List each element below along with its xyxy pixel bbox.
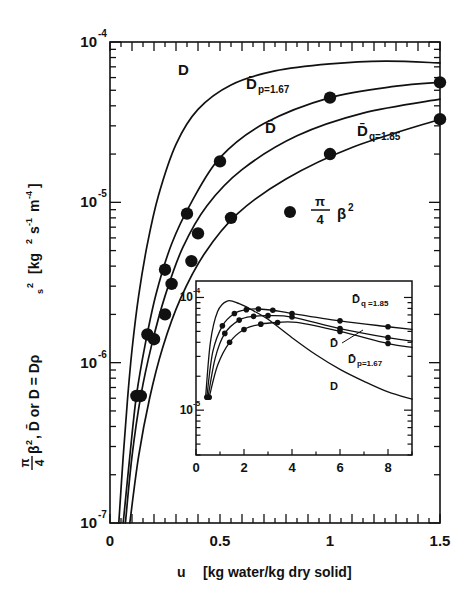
main-data-point <box>324 148 336 160</box>
inset-data-point <box>251 314 257 320</box>
inset-x-tick-label: 4 <box>288 460 296 475</box>
y-axis-pi: π <box>18 458 32 467</box>
legend-pi: π <box>315 194 325 209</box>
legend-filled-circle-icon <box>284 206 296 218</box>
inset-data-point <box>265 313 271 319</box>
inset-x-tick-label: 8 <box>384 460 391 475</box>
main-data-point <box>135 390 147 402</box>
y-axis-middle: , D̄ or D = Dρ <box>25 354 42 439</box>
curve-label-Dq-main: D̄ <box>357 122 368 139</box>
main-x-tick-label: 1 <box>326 532 334 549</box>
figure-container: 10-410-510-610-7 00.511.5 D D̄ p=1.67 D̄… <box>0 0 459 611</box>
curve-label-D: D <box>178 61 189 78</box>
y-axis-m-exponent: -4 <box>24 191 34 199</box>
main-x-tick-label: 0.5 <box>210 532 231 549</box>
inset-data-point <box>241 327 247 333</box>
inset-data-point <box>222 331 228 337</box>
curve-label-Dq-sub: q=1.85 <box>369 131 401 142</box>
inset-curve-label-Dq-main: D̄ <box>352 293 360 305</box>
main-data-point <box>159 264 171 276</box>
inset-curve-label-Dq-sub: q =1.85 <box>361 299 389 308</box>
main-y-tick-labels: 10-410-510-610-7 <box>80 28 107 531</box>
inset-x-tick-label: 2 <box>240 460 247 475</box>
main-y-tick-exponent: -4 <box>98 28 107 39</box>
inset-data-point <box>270 307 276 313</box>
main-y-tick-mantissa: 10 <box>80 193 97 210</box>
main-x-tick-label: 1.5 <box>430 532 451 549</box>
legend-four: 4 <box>316 212 324 227</box>
inset-data-point <box>385 341 391 347</box>
inset-x-tick-labels: 02468 <box>192 460 391 475</box>
inset-curve-label-Dp-main: D̄ <box>348 353 356 365</box>
inset-data-point <box>236 317 242 323</box>
main-data-point <box>324 91 336 103</box>
curve-label-Dp: D̄ p=1.67 <box>246 75 290 95</box>
y-axis-rho-sub: s <box>35 289 45 294</box>
y-axis-beta: β <box>26 445 42 454</box>
inset-y-tick-exponent: -4 <box>193 286 201 295</box>
inset-curve-label-D: D <box>330 380 338 392</box>
curve-label-Dp-main: D̄ <box>246 75 257 92</box>
legend-beta: β <box>337 205 346 222</box>
main-data-point <box>185 255 197 267</box>
inset-x-tick-label: 0 <box>192 460 199 475</box>
x-axis-units: [kg water/kg dry solid] <box>203 564 352 580</box>
inset-y-tick-mantissa: 10 <box>180 290 194 304</box>
y-axis-title: π 4 β 2 , D̄ or D = Dρ s 2 [kg 2 s -1 m … <box>18 183 47 470</box>
main-y-tick-mantissa: 10 <box>80 514 97 531</box>
inset-y-tick-mantissa: 10 <box>180 403 194 417</box>
y-axis-s-exponent: -1 <box>24 218 34 226</box>
diffusivity-chart: 10-410-510-610-7 00.511.5 D D̄ p=1.67 D̄… <box>0 0 459 611</box>
main-y-tick-mantissa: 10 <box>80 33 97 50</box>
main-x-tick-labels: 00.511.5 <box>106 532 451 549</box>
y-axis-unit-open: [kg <box>26 253 42 274</box>
inset-curve-label-Dp-sub: p=1.67 <box>357 359 383 368</box>
legend: π 4 β 2 <box>284 194 354 227</box>
inset-curve-label-Dbar: D̄ <box>330 337 338 349</box>
x-axis-symbol: u <box>177 564 186 580</box>
curve-label-Dp-sub: p=1.67 <box>258 84 290 95</box>
y-axis-kg-exponent: 2 <box>24 239 34 244</box>
inset-data-point <box>232 311 238 317</box>
inset-data-point <box>258 321 264 327</box>
main-data-point <box>434 113 446 125</box>
main-data-point <box>148 333 160 345</box>
inset-data-point <box>206 395 212 401</box>
main-y-tick-exponent: -5 <box>98 188 107 199</box>
y-axis-rho-exponent: 2 <box>25 283 35 288</box>
inset-x-tick-label: 6 <box>336 460 343 475</box>
y-axis-s: s <box>26 226 42 234</box>
x-axis-title: u [kg water/kg dry solid] <box>177 564 352 580</box>
curve-label-Dq: D̄ q=1.85 <box>357 122 401 142</box>
inset-data-point <box>289 314 295 320</box>
main-data-point <box>192 227 204 239</box>
main-data-point <box>225 212 237 224</box>
main-curve-labels: D D̄ p=1.67 D̄ D̄ q=1.85 <box>178 61 401 142</box>
main-y-tick-exponent: -7 <box>98 509 107 520</box>
main-x-tick-label: 0 <box>106 532 114 549</box>
inset-data-point <box>337 318 343 324</box>
inset-data-point <box>244 307 250 313</box>
curve-label-Dbar: D̄ <box>265 119 276 136</box>
inset-data-point <box>256 306 262 312</box>
y-axis-unit-close: ] <box>26 183 42 188</box>
main-data-point <box>181 207 193 219</box>
main-y-tick-mantissa: 10 <box>80 354 97 371</box>
inset-data-point <box>337 329 343 335</box>
inset-data-point <box>385 335 391 341</box>
inset-data-point <box>220 323 226 329</box>
main-y-tick-exponent: -6 <box>98 349 107 360</box>
inset-data-point <box>275 320 281 326</box>
y-axis-m: m <box>26 200 42 212</box>
y-axis-four: 4 <box>33 459 47 466</box>
inset-data-point <box>227 340 233 346</box>
inset-plot: 10-410-5 02468 D̄ q =1.85 D̄ D̄ p=1.67 D <box>180 281 412 475</box>
main-data-point <box>165 278 177 290</box>
main-data-point <box>434 76 446 88</box>
inset-data-point <box>385 324 391 330</box>
inset-y-tick-exponent: -5 <box>193 399 201 408</box>
main-data-point <box>214 155 226 167</box>
main-data-point <box>159 308 171 320</box>
y-axis-beta-exponent: 2 <box>24 440 34 445</box>
legend-beta-exponent: 2 <box>348 202 354 213</box>
